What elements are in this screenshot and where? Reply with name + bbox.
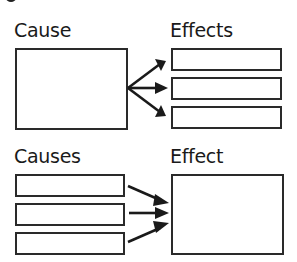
fan-out-arrows	[128, 59, 168, 117]
arrowhead-icon	[155, 82, 168, 94]
arrowhead-icon	[155, 207, 169, 219]
fan-in-arrows	[128, 186, 169, 242]
arrow-icon	[128, 228, 160, 242]
arrows-layer	[0, 0, 297, 262]
arrowhead-icon	[153, 194, 169, 206]
cause-effect-diagram: Cause Effects Causes Effect	[0, 0, 297, 262]
